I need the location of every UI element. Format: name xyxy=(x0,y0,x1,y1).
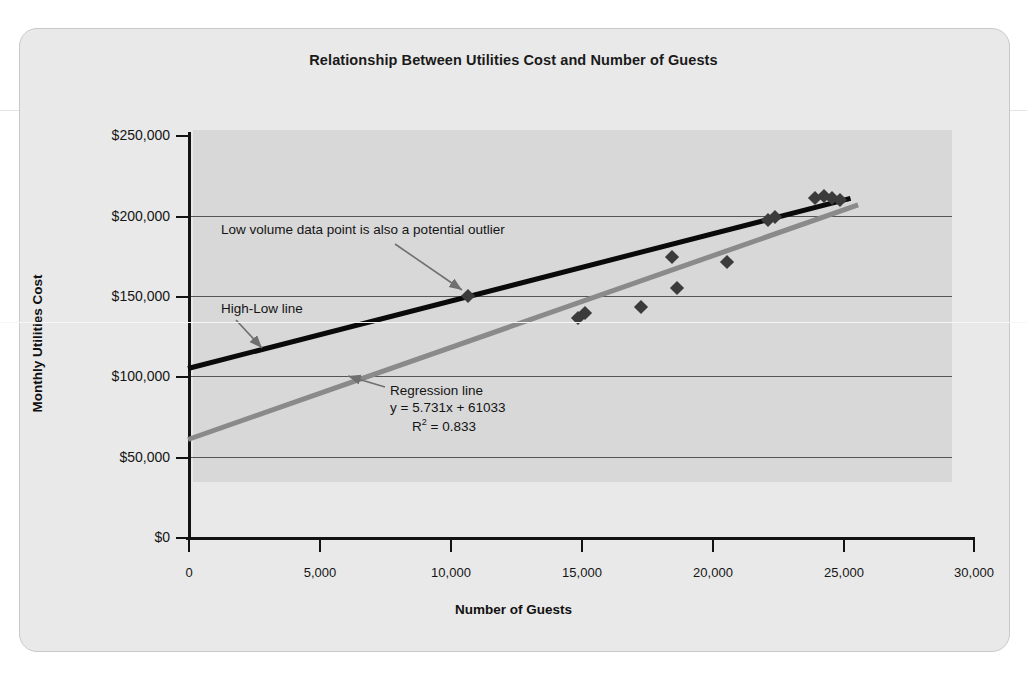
chart-screenshot: Relationship Between Utilities Cost and … xyxy=(0,0,1027,676)
background-seam-lower xyxy=(0,322,1027,323)
outlier-arrow xyxy=(0,0,1027,676)
